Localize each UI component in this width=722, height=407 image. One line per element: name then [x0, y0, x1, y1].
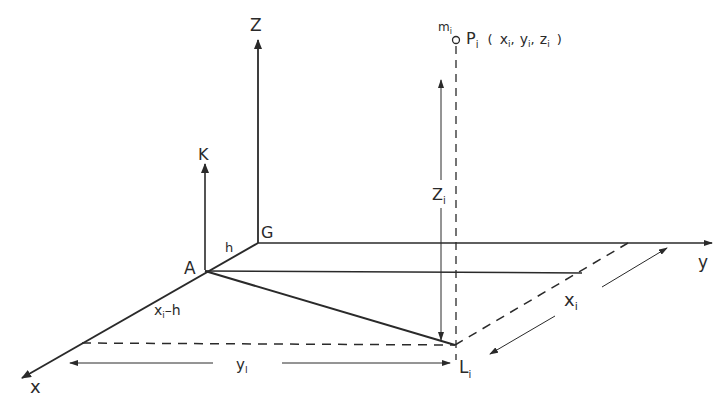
dashed-x-to-l: [82, 343, 455, 345]
xi-minus-h-label: xi–h: [154, 302, 181, 320]
z-axis-label: Z: [250, 15, 262, 35]
a-to-l-line: [205, 271, 455, 345]
point-a-label: A: [184, 258, 196, 278]
z-i-label: Zi: [432, 185, 446, 206]
y-i-label: yI: [236, 356, 248, 375]
point-g-label: G: [261, 223, 273, 242]
x-i-arrow-down: [490, 316, 555, 354]
point-p-label: Pi ( xi, yi, zi ): [466, 29, 562, 52]
x-axis: [22, 243, 258, 378]
dashed-l-to-y: [455, 243, 628, 345]
a-parallel-line: [205, 271, 582, 273]
point-p-marker: [453, 37, 460, 44]
x-i-label: xi: [564, 289, 578, 313]
h-label: h: [225, 240, 233, 255]
coordinate-diagram: Z K y x G A h xi–h yI Li xi Zi mi Pi ( x…: [0, 0, 722, 407]
k-axis-label: K: [198, 145, 209, 164]
x-i-arrow-up: [602, 248, 667, 287]
x-axis-label: x: [30, 376, 41, 397]
point-l-label: Li: [459, 357, 471, 380]
mass-label: mi: [438, 20, 452, 36]
y-axis-label: y: [698, 252, 708, 272]
